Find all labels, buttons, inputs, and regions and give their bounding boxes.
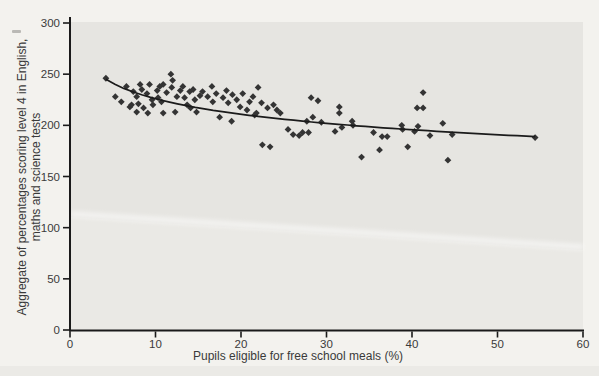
scan-speck <box>12 30 21 33</box>
y-axis-label-line2: maths and science tests <box>29 113 43 242</box>
x-tick-label: 40 <box>406 338 419 350</box>
y-tick-label: 50 <box>47 273 60 285</box>
y-tick-label: 100 <box>41 222 60 234</box>
x-axis-label: Pupils eligible for free school meals (%… <box>193 349 403 363</box>
x-tick-label: 0 <box>67 338 73 350</box>
x-tick-label: 50 <box>491 338 504 350</box>
x-tick-label: 20 <box>235 338 248 350</box>
x-tick-label: 30 <box>320 338 333 350</box>
x-tick-label: 10 <box>149 338 162 350</box>
y-tick-label: 150 <box>41 171 60 183</box>
y-tick-label: 200 <box>41 119 60 131</box>
x-tick-label: 60 <box>577 338 590 350</box>
y-axis-label-line1: Aggregate of percentages scoring level 4… <box>15 39 29 316</box>
scatter-chart: 0102030405060 050100150200250300 Pupils … <box>0 0 599 376</box>
y-tick-label: 300 <box>41 17 60 29</box>
y-tick-label: 0 <box>54 324 60 336</box>
y-tick-label: 250 <box>41 68 60 80</box>
chart-figure: 0102030405060 050100150200250300 Pupils … <box>0 0 599 376</box>
